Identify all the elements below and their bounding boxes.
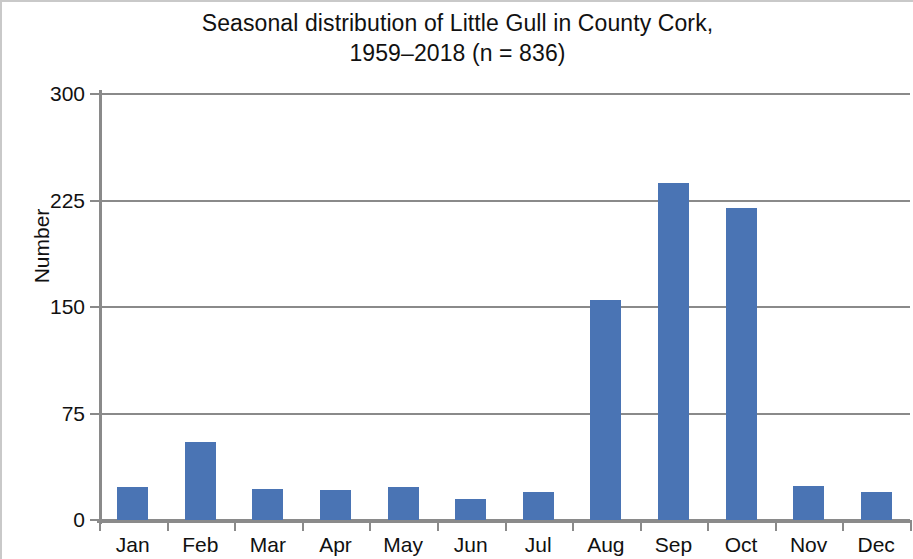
x-tick-mark [369,520,371,531]
bar-jul [523,492,554,520]
x-tick-label-mar: Mar [250,533,286,557]
bar-nov [793,486,824,520]
x-tick-mark [437,520,439,531]
x-tick-label-jul: Jul [525,533,552,557]
bar-mar [252,489,283,520]
x-tick-label-oct: Oct [725,533,758,557]
gridline [99,93,910,95]
gridline [99,413,910,415]
x-tick-mark [572,520,574,531]
y-tick-mark [90,306,101,308]
y-tick-label: 150 [50,295,85,319]
bar-jan [117,487,148,520]
bar-dec [861,492,892,520]
bar-aug [590,300,621,520]
x-tick-mark [707,520,709,531]
bar-may [388,487,419,520]
x-tick-mark [99,520,101,531]
y-tick-mark [90,93,101,95]
x-tick-label-dec: Dec [858,533,895,557]
x-tick-mark [910,520,912,531]
chart-figure: Seasonal distribution of Little Gull in … [0,0,913,559]
y-tick-mark [90,200,101,202]
bar-sep [658,183,689,520]
x-tick-label-jun: Jun [454,533,488,557]
gridline [99,306,910,308]
y-tick-mark [90,413,101,415]
x-tick-label-apr: Apr [319,533,352,557]
bar-jun [455,499,486,520]
x-tick-mark [842,520,844,531]
x-tick-mark [775,520,777,531]
x-tick-label-may: May [383,533,423,557]
y-tick-label: 0 [73,508,85,532]
y-tick-label: 75 [62,402,85,426]
y-tick-label: 225 [50,189,85,213]
x-tick-mark [167,520,169,531]
y-tick-label: 300 [50,82,85,106]
x-tick-mark [640,520,642,531]
plot-area: 075150225300 [99,94,910,520]
bar-feb [185,442,216,520]
x-tick-label-sep: Sep [655,533,692,557]
x-tick-mark [234,520,236,531]
bar-oct [726,208,757,520]
x-tick-mark [505,520,507,531]
gridline [99,200,910,202]
x-tick-label-feb: Feb [182,533,218,557]
x-tick-label-jan: Jan [116,533,150,557]
x-tick-label-nov: Nov [790,533,827,557]
x-tick-mark [302,520,304,531]
chart-title: Seasonal distribution of Little Gull in … [2,8,913,68]
bar-apr [320,490,351,520]
x-tick-label-aug: Aug [587,533,624,557]
